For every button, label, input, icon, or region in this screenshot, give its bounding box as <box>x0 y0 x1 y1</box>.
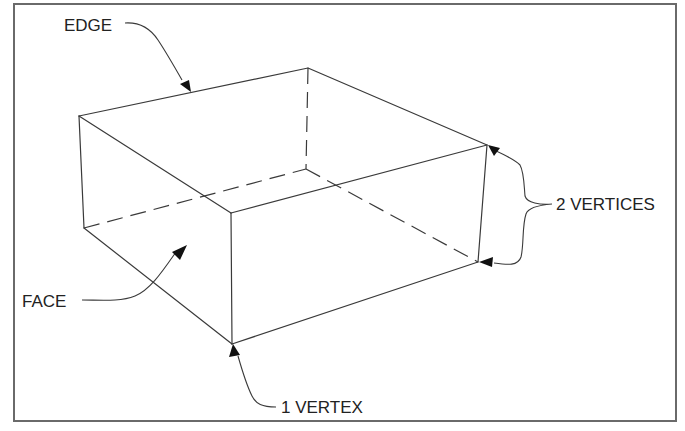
vertex-arrow-icon <box>229 344 240 357</box>
hidden-edge-back-right <box>306 169 478 262</box>
edge-top-left-to-top-near <box>79 116 231 213</box>
edge-top-right-to-bottom-right <box>478 145 487 262</box>
edge-arrow-icon <box>180 80 191 92</box>
edge-bottom-near-to-bottom-right <box>232 262 478 344</box>
vertex-callout: 1 VERTEX <box>229 344 363 417</box>
vertex-label: 1 VERTEX <box>281 398 363 417</box>
vertex-leader-line <box>238 356 276 407</box>
edge-leader-line <box>125 23 182 80</box>
vertices-callout: 2 VERTICES <box>479 145 655 267</box>
edge-top-left-to-top-back <box>79 68 308 116</box>
face-callout: FACE <box>22 245 187 311</box>
face-label: FACE <box>22 292 66 311</box>
box-diagram: EDGE FACE 1 VERTEX 2 VERTICES <box>0 0 685 431</box>
edge-label: EDGE <box>64 16 112 35</box>
edge-bottom-left-to-bottom-near <box>84 228 232 344</box>
edge-top-near-to-bottom-near <box>231 213 232 344</box>
edge-top-near-to-top-right <box>231 145 487 213</box>
vertices-label: 2 VERTICES <box>556 195 655 214</box>
face-arrow-icon <box>172 245 187 260</box>
vertices-arrow-top-icon <box>488 145 500 156</box>
edge-top-left-to-bottom-left <box>79 116 84 228</box>
vertices-arrow-bottom-icon <box>479 257 493 267</box>
hidden-edge-back-left <box>84 169 306 228</box>
vertices-brace-line <box>494 150 552 264</box>
edge-callout: EDGE <box>64 16 191 92</box>
face-leader-line <box>82 252 176 300</box>
hidden-edges <box>84 68 478 262</box>
hidden-edge-back-vertical <box>306 68 308 169</box>
edge-top-back-to-top-right <box>308 68 487 145</box>
visible-edges <box>79 68 487 344</box>
